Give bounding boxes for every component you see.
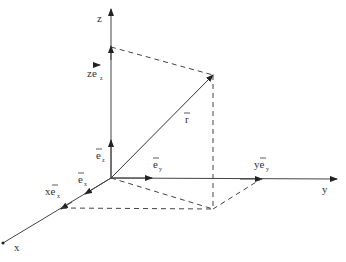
- svg-text:y: y: [266, 166, 269, 172]
- x-axis-label: x: [14, 241, 20, 253]
- svg-text:z: z: [100, 75, 103, 81]
- yey-label: ye y: [254, 158, 269, 172]
- svg-text:e: e: [78, 173, 83, 185]
- r-vector: [111, 75, 213, 178]
- x-axis-tip: [2, 242, 5, 245]
- z-axis-label: z: [97, 12, 102, 24]
- coordinate-diagram: z y x ze z e z e y e x xe x ye y r: [0, 0, 346, 262]
- svg-text:e: e: [153, 158, 158, 170]
- ez-label: e z: [96, 149, 105, 163]
- svg-text:e: e: [96, 149, 101, 161]
- svg-text:xe: xe: [45, 185, 56, 197]
- svg-text:z: z: [102, 157, 105, 163]
- svg-text:ye: ye: [254, 158, 265, 170]
- svg-text:r: r: [185, 113, 189, 125]
- svg-text:ze: ze: [87, 67, 97, 79]
- ey-label: e y: [153, 158, 162, 172]
- zez-label: ze z: [87, 65, 103, 81]
- y-axis-label: y: [322, 183, 328, 195]
- svg-text:x: x: [57, 193, 60, 199]
- ex-arrow: [85, 178, 111, 194]
- xex-label: xe x: [45, 185, 60, 199]
- ex-label: e x: [78, 173, 87, 187]
- svg-text:y: y: [159, 166, 162, 172]
- r-label: r: [184, 113, 190, 125]
- svg-text:x: x: [84, 181, 87, 187]
